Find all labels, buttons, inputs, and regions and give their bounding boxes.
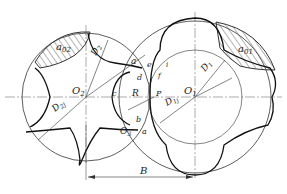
label-o3: O3 xyxy=(120,126,131,137)
label-d1: D1 xyxy=(198,58,214,74)
label-a-top: a xyxy=(131,56,136,66)
label-c: c xyxy=(112,89,117,98)
b-arrow-right xyxy=(186,175,193,179)
label-r: R xyxy=(131,88,139,98)
label-i: i xyxy=(166,61,168,69)
label-o2: O2 xyxy=(72,85,85,98)
label-e: e xyxy=(147,60,152,69)
label-p: P xyxy=(155,89,162,98)
label-d: d xyxy=(137,73,142,82)
label-f: f xyxy=(157,72,162,80)
d1-radius xyxy=(195,78,232,97)
label-o1: O1 xyxy=(184,85,197,98)
label-d2j: D2j xyxy=(49,97,67,115)
label-b-dim: B xyxy=(139,165,147,176)
label-b: b xyxy=(136,115,141,124)
hatch-a01 xyxy=(216,22,275,70)
rotor-diagram: a02 a01 D2 D1 D2j D1j O2 O1 O3 a a b c d… xyxy=(0,0,287,194)
label-d1j: D1j xyxy=(162,93,180,110)
label-a-bottom: a xyxy=(142,127,147,136)
b-arrow-left xyxy=(88,175,95,179)
